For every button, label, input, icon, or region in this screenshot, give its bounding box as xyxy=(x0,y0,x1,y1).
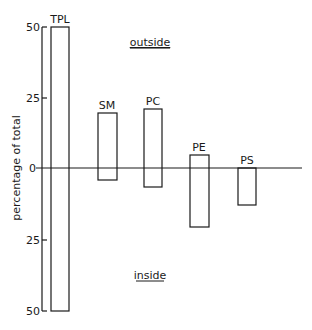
y-axis-label: percentage of total xyxy=(10,115,23,220)
bar-ps xyxy=(238,168,256,205)
bar-label-ps: PS xyxy=(240,154,254,167)
y-tick-label: 50 xyxy=(26,21,40,34)
y-tick-label: 25 xyxy=(26,92,40,105)
chart: 50 25 0 25 50 percentage of total TPL SM… xyxy=(0,0,312,330)
bar-label-pe: PE xyxy=(192,141,206,154)
bar-sm xyxy=(98,113,117,180)
annotation-outside: outside xyxy=(130,36,171,49)
y-tick-label: 25 xyxy=(26,234,40,247)
annotation-inside: inside xyxy=(134,269,167,282)
y-tick-label: 50 xyxy=(26,305,40,318)
bar-pe xyxy=(190,155,209,227)
bar-pc xyxy=(144,109,162,187)
bar-label-pc: PC xyxy=(146,95,161,108)
y-tick-label: 0 xyxy=(29,162,36,175)
bar-label-sm: SM xyxy=(99,99,115,112)
bar-label-tpl: TPL xyxy=(49,13,70,26)
bar-tpl xyxy=(51,27,69,311)
